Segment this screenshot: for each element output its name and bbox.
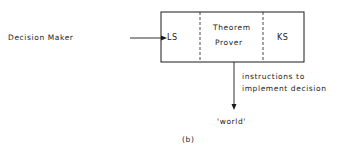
prover-label: Prover [215,39,243,47]
ks-label: KS [277,34,289,42]
instructions-label-line1: instructions to [242,73,305,81]
decision-maker-label: Decision Maker [8,34,74,42]
world-label: 'world' [217,118,246,126]
ls-label: LS [167,34,178,42]
instructions-label-line2: implement decision [242,85,327,93]
output-arrowhead-icon [232,104,237,110]
theorem-label: Theorem [213,24,251,32]
figure-caption: (b) [182,136,194,144]
